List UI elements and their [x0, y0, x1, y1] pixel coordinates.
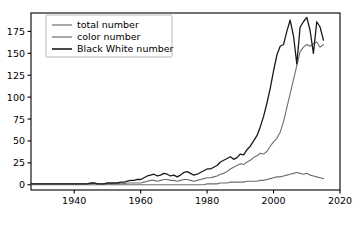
x-tick-label: 1940: [62, 195, 86, 206]
x-tick-label: 1960: [129, 195, 153, 206]
legend-label-color-number: color number: [77, 31, 141, 42]
y-tick-label: 150: [7, 48, 25, 59]
legend-label-black-white-number: Black White number: [77, 43, 174, 54]
legend-label-total-number: total number: [77, 19, 139, 30]
chart-figure: 19401960198020002020 0255075100125150175…: [0, 0, 354, 226]
x-tick-label: 2020: [328, 195, 352, 206]
line-chart: 19401960198020002020 0255075100125150175…: [0, 0, 354, 226]
y-tick-label: 75: [13, 114, 25, 125]
x-tick-label: 2000: [261, 195, 285, 206]
y-tick-label: 175: [7, 26, 25, 37]
y-tick-label: 0: [19, 179, 25, 190]
y-tick-label: 50: [13, 135, 25, 146]
y-tick-label: 100: [7, 92, 25, 103]
x-tick-label: 1980: [195, 195, 219, 206]
legend[interactable]: total numbercolor numberBlack White numb…: [46, 15, 174, 57]
y-tick-label: 125: [7, 70, 25, 81]
y-tick-label: 25: [13, 157, 25, 168]
